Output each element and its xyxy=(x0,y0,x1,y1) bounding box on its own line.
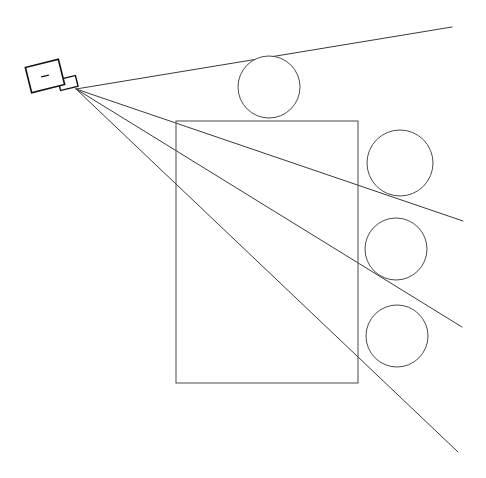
scene-svg xyxy=(0,0,486,478)
rectangle-obstacle xyxy=(176,121,358,383)
circle-right-3 xyxy=(366,305,428,367)
circle-right-2 xyxy=(365,218,427,280)
circle-obstacle-group xyxy=(238,56,433,367)
sensor-icon xyxy=(25,59,78,92)
circle-top xyxy=(238,56,300,118)
circle-right-1 xyxy=(367,130,433,196)
ray-3 xyxy=(76,89,462,327)
diagram-canvas xyxy=(0,0,486,478)
rectangle-obstacle-group xyxy=(176,121,358,383)
